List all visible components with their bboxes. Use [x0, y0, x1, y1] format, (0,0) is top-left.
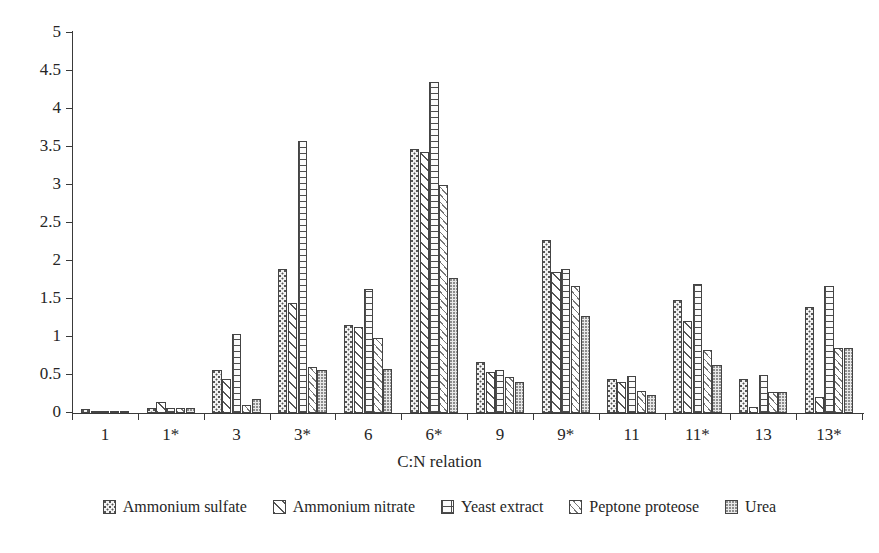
bar-sulfate[interactable]	[212, 370, 221, 413]
legend-item-nitrate[interactable]: Ammonium nitrate	[273, 498, 415, 516]
bar-peptone[interactable]	[637, 391, 646, 413]
bar-yeast[interactable]	[429, 82, 438, 413]
bar-peptone[interactable]	[110, 411, 119, 413]
bar-nitrate[interactable]	[354, 327, 363, 413]
bar-peptone[interactable]	[308, 367, 317, 413]
legend-label: Urea	[745, 498, 776, 516]
bar-peptone[interactable]	[176, 408, 185, 413]
bar-urea[interactable]	[186, 408, 195, 413]
y-tick-mark	[66, 374, 72, 375]
x-tick-label-11: 11	[602, 424, 662, 446]
bar-nitrate[interactable]	[815, 397, 824, 413]
bar-peptone[interactable]	[703, 350, 712, 413]
bar-sulfate[interactable]	[542, 240, 551, 413]
bar-peptone[interactable]	[571, 286, 580, 413]
bar-peptone[interactable]	[439, 185, 448, 413]
bar-peptone[interactable]	[373, 338, 382, 413]
bar-nitrate[interactable]	[420, 152, 429, 413]
y-tick-label: 1	[53, 326, 62, 346]
y-tick-label: 0	[53, 402, 62, 422]
bar-peptone[interactable]	[768, 392, 777, 413]
legend-swatch-sulfate-icon	[103, 500, 116, 514]
bar-nitrate[interactable]	[551, 272, 560, 413]
bar-group	[278, 33, 326, 413]
bar-sulfate[interactable]	[410, 149, 419, 413]
bar-urea[interactable]	[712, 365, 721, 413]
y-tick-label: 0.5	[40, 364, 61, 384]
y-tick-mark	[66, 32, 72, 33]
bar-urea[interactable]	[383, 369, 392, 413]
bar-yeast[interactable]	[100, 411, 109, 413]
y-tick-mark	[66, 222, 72, 223]
y-tick-label: 4.5	[40, 60, 61, 80]
bar-urea[interactable]	[449, 278, 458, 413]
bar-nitrate[interactable]	[91, 411, 100, 413]
bar-peptone[interactable]	[505, 377, 514, 413]
bar-sulfate[interactable]	[476, 362, 485, 413]
bar-sulfate[interactable]	[344, 325, 353, 413]
bar-nitrate[interactable]	[156, 402, 165, 413]
y-tick-label: 5	[53, 22, 62, 42]
legend-item-yeast[interactable]: Yeast extract	[441, 498, 543, 516]
bar-urea[interactable]	[515, 382, 524, 413]
x-tick-mark	[72, 413, 73, 420]
bar-yeast[interactable]	[693, 284, 702, 413]
x-tick-mark	[665, 413, 666, 420]
bar-yeast[interactable]	[759, 375, 768, 413]
x-tick-label-3star: 3*	[272, 424, 332, 446]
legend-label: Ammonium nitrate	[293, 498, 415, 516]
bar-peptone[interactable]	[834, 348, 843, 413]
bar-peptone[interactable]	[242, 405, 251, 413]
x-tick-mark	[270, 413, 271, 420]
bar-nitrate[interactable]	[749, 407, 758, 413]
bar-group	[673, 33, 721, 413]
bar-nitrate[interactable]	[617, 382, 626, 413]
bar-group	[212, 33, 260, 413]
bar-urea[interactable]	[120, 411, 129, 413]
bar-yeast[interactable]	[298, 141, 307, 413]
bar-yeast[interactable]	[627, 376, 636, 413]
bar-sulfate[interactable]	[81, 409, 90, 413]
bar-sulfate[interactable]	[607, 379, 616, 413]
bar-urea[interactable]	[647, 395, 656, 413]
bar-group	[607, 33, 655, 413]
bar-sulfate[interactable]	[147, 408, 156, 413]
bar-nitrate[interactable]	[288, 303, 297, 413]
x-tick-label-6: 6	[338, 424, 398, 446]
bar-nitrate[interactable]	[486, 372, 495, 413]
x-tick-mark	[796, 413, 797, 420]
bar-urea[interactable]	[844, 348, 853, 413]
y-tick-label: 2.5	[40, 212, 61, 232]
bar-sulfate[interactable]	[805, 307, 814, 413]
bar-urea[interactable]	[581, 316, 590, 413]
bar-sulfate[interactable]	[673, 300, 682, 413]
legend-label: Yeast extract	[461, 498, 543, 516]
bar-yeast[interactable]	[561, 269, 570, 413]
bar-yeast[interactable]	[232, 334, 241, 413]
legend-item-urea[interactable]: Urea	[725, 498, 776, 516]
legend-swatch-nitrate-icon	[273, 500, 286, 514]
x-tick-mark	[599, 413, 600, 420]
bar-urea[interactable]	[778, 392, 787, 413]
bar-yeast[interactable]	[166, 408, 175, 413]
bar-sulfate[interactable]	[278, 269, 287, 413]
bar-group	[805, 33, 853, 413]
bar-urea[interactable]	[252, 399, 261, 413]
x-tick-mark	[138, 413, 139, 420]
legend-item-peptone[interactable]: Peptone proteose	[569, 498, 699, 516]
bar-yeast[interactable]	[495, 370, 504, 413]
bar-yeast[interactable]	[364, 289, 373, 413]
bar-nitrate[interactable]	[683, 321, 692, 413]
legend-item-sulfate[interactable]: Ammonium sulfate	[103, 498, 247, 516]
bar-group	[476, 33, 524, 413]
bar-urea[interactable]	[317, 370, 326, 413]
y-tick-label: 3.5	[40, 136, 61, 156]
legend-swatch-urea-icon	[725, 500, 738, 514]
legend-label: Ammonium sulfate	[123, 498, 247, 516]
x-tick-mark	[467, 413, 468, 420]
bar-sulfate[interactable]	[739, 379, 748, 413]
bar-yeast[interactable]	[824, 286, 833, 413]
x-tick-mark	[401, 413, 402, 420]
bar-chart-figure: 00.511.522.533.544.55 11*33*66*99*1111*1…	[0, 0, 879, 553]
bar-nitrate[interactable]	[222, 379, 231, 413]
